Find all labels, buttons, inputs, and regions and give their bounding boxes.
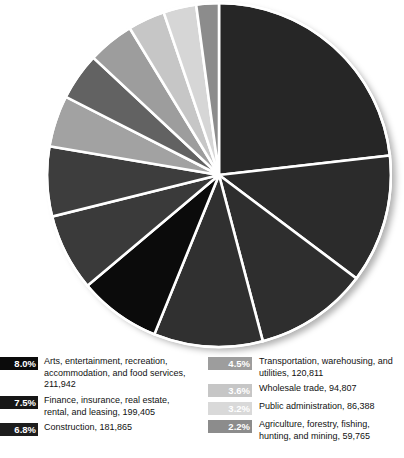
legend-label: Transportation, warehousing, and utiliti… [259,356,393,379]
legend-label: Arts, entertainment, recreation, accommo… [44,356,186,391]
legend-swatch: 4.5% [208,357,252,370]
legend-label: Finance, insurance, real estate, rental,… [44,395,170,418]
legend: 8.0%Arts, entertainment, recreation, acc… [0,356,404,458]
legend-swatch: 6.8% [0,423,38,436]
legend-item[interactable]: 2.2%Agriculture, forestry, fishing, hunt… [200,419,404,442]
legend-item[interactable]: 3.6%Wholesale trade, 94,807 [200,383,404,397]
legend-column-right: 4.5%Transportation, warehousing, and uti… [200,356,404,447]
legend-label: Construction, 181,865 [44,422,132,434]
legend-item[interactable]: 3.2%Public administration, 86,388 [200,401,404,415]
legend-item[interactable]: 4.5%Transportation, warehousing, and uti… [200,356,404,379]
page-title: b? [0,46,48,86]
pie-chart [46,1,392,349]
legend-item[interactable]: 6.8%Construction, 181,865 [0,422,200,436]
legend-swatch: 7.5% [0,396,38,409]
legend-label: Public administration, 86,388 [259,401,375,413]
legend-label: Wholesale trade, 94,807 [259,383,357,395]
pie-slice[interactable] [219,3,390,175]
legend-swatch: 3.6% [208,384,252,397]
legend-item[interactable]: 8.0%Arts, entertainment, recreation, acc… [0,356,200,391]
legend-item[interactable]: 7.5%Finance, insurance, real estate, ren… [0,395,200,418]
page-subtitle: es [0,96,50,107]
infographic-root: b? es 8.0%Arts, entertainment, recreatio… [0,0,404,458]
legend-swatch: 8.0% [0,357,38,370]
legend-swatch: 2.2% [208,420,252,433]
legend-swatch: 3.2% [208,402,252,415]
legend-label: Agriculture, forestry, fishing, hunting,… [259,419,370,442]
legend-column-left: 8.0%Arts, entertainment, recreation, acc… [0,356,200,440]
pie-chart-svg [46,1,392,349]
